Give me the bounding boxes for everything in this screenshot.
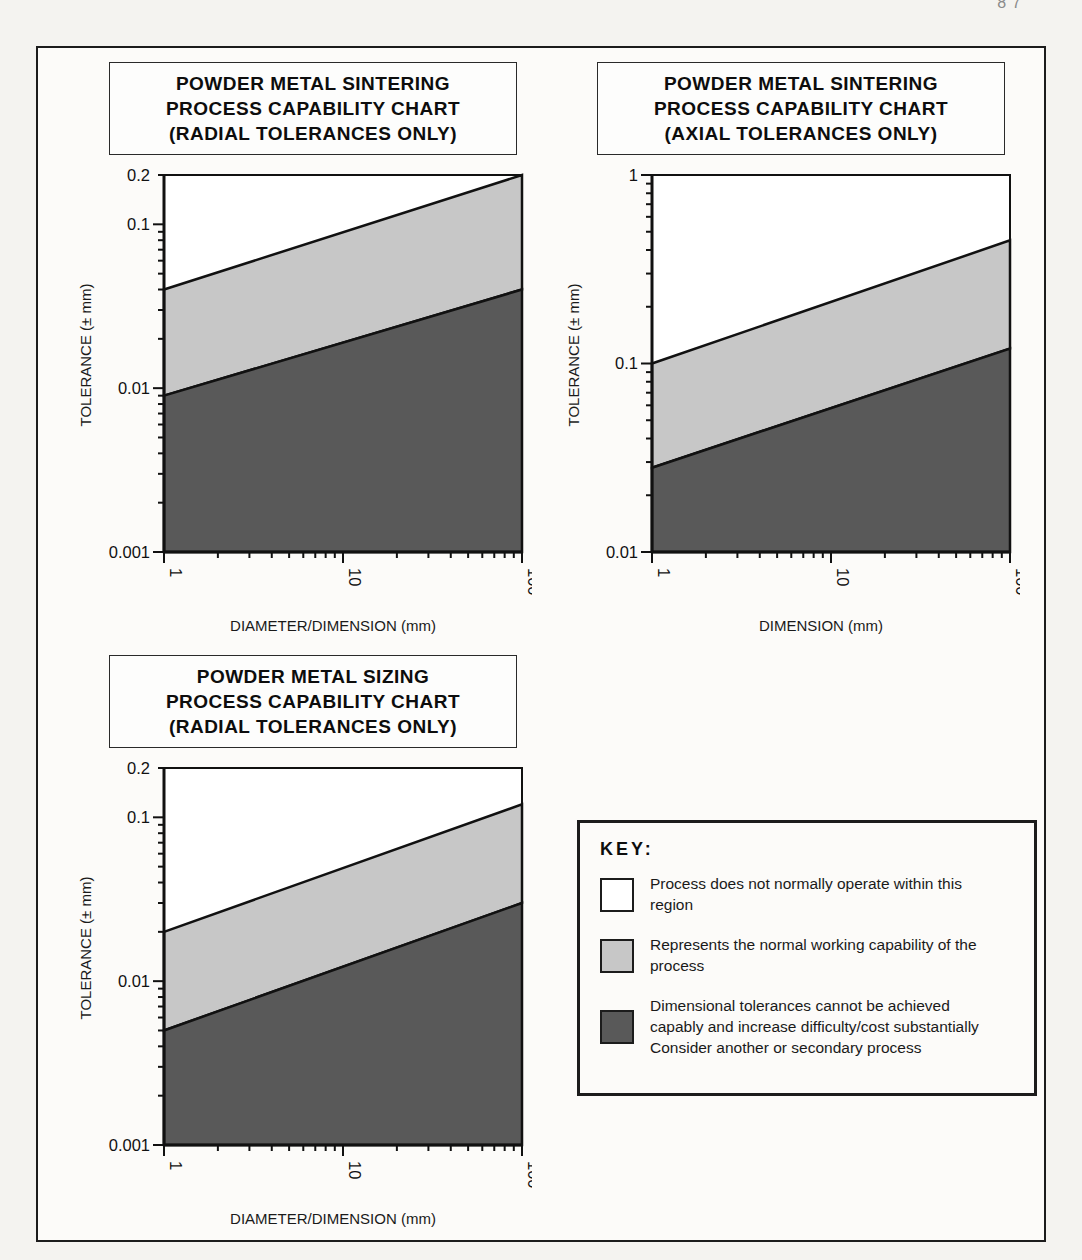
x-tick-label: 10 [346,1161,364,1179]
chart-sintering-axial: POWDER METAL SINTERING PROCESS CAPABILIT… [556,62,1046,634]
chart-title-line: PROCESS CAPABILITY CHART [602,96,1000,121]
x-tick-label: 100 [525,568,533,596]
chart-title-line: POWDER METAL SIZING [114,664,512,689]
plot-row: TOLERANCE (± mm) 0.0010.010.10.2110100 [68,760,558,1208]
y-axis-gutter: TOLERANCE (± mm) [556,167,590,615]
x-axis-label: DIAMETER/DIMENSION (mm) [68,617,558,634]
plot-row: TOLERANCE (± mm) 0.0010.010.10.2110100 [68,167,558,615]
y-tick-label: 0.1 [127,215,150,233]
key-item-white-region: Process does not normally operate within… [600,874,1014,916]
x-axis-label: DIMENSION (mm) [556,617,1046,634]
key-legend: KEY: Process does not normally operate w… [577,820,1037,1096]
dark-gray-region-swatch [600,1010,634,1044]
x-tick-label: 10 [834,568,852,586]
white-region-swatch [600,878,634,912]
plot-svg-sintering-radial: 0.0010.010.10.2110100 [102,167,532,615]
key-title: KEY: [600,839,1014,860]
y-tick-label: 0.1 [615,354,638,372]
x-tick-label: 100 [1013,568,1021,596]
figure-frame: POWDER METAL SINTERING PROCESS CAPABILIT… [36,46,1046,1242]
page-header-fragment: 87 [997,0,1027,11]
chart-title-box: POWDER METAL SINTERING PROCESS CAPABILIT… [109,62,517,155]
key-item-not-capable: Dimensional tolerances cannot be achieve… [600,996,1014,1059]
y-tick-label: 0.01 [118,972,150,990]
chart-sintering-radial: POWDER METAL SINTERING PROCESS CAPABILIT… [68,62,558,634]
y-tick-label: 0.1 [127,808,150,826]
y-tick-label: 0.01 [118,379,150,397]
plot-svg-sintering-axial: 0.010.11110100 [590,167,1020,615]
y-axis-label: TOLERANCE (± mm) [565,284,582,427]
y-axis-ticks: 0.0010.010.10.2 [109,760,164,1154]
chart-title-line: (RADIAL TOLERANCES ONLY) [114,121,512,146]
x-axis-ticks: 110100 [164,1145,532,1189]
x-axis-label: DIAMETER/DIMENSION (mm) [68,1210,558,1227]
chart-title-line: PROCESS CAPABILITY CHART [114,96,512,121]
y-axis-ticks: 0.0010.010.10.2 [109,167,164,561]
x-tick-label: 1 [167,1161,185,1170]
key-item-label: Represents the normal working capability… [650,935,1002,977]
light-gray-region-swatch [600,939,634,973]
x-tick-label: 1 [167,568,185,577]
chart-title-line: (AXIAL TOLERANCES ONLY) [602,121,1000,146]
chart-title-box: POWDER METAL SINTERING PROCESS CAPABILIT… [597,62,1005,155]
chart-sizing-radial: POWDER METAL SIZING PROCESS CAPABILITY C… [68,655,558,1227]
y-axis-gutter: TOLERANCE (± mm) [68,760,102,1208]
key-item-normal-capability: Represents the normal working capability… [600,935,1014,977]
plot-row: TOLERANCE (± mm) 0.010.11110100 [556,167,1046,615]
x-axis-ticks: 110100 [164,552,532,596]
x-tick-label: 10 [346,568,364,586]
y-tick-label: 0.001 [109,543,150,561]
x-axis-ticks: 110100 [652,552,1020,596]
key-item-label: Dimensional tolerances cannot be achieve… [650,996,1002,1059]
y-tick-label: 0.001 [109,1136,150,1154]
chart-title-line: (RADIAL TOLERANCES ONLY) [114,714,512,739]
chart-title-line: POWDER METAL SINTERING [602,71,1000,96]
scanned-page: 87 POWDER METAL SINTERING PROCESS CAPABI… [0,0,1082,1260]
x-tick-label: 100 [525,1161,533,1189]
chart-title-line: PROCESS CAPABILITY CHART [114,689,512,714]
chart-title-line: POWDER METAL SINTERING [114,71,512,96]
x-tick-label: 1 [655,568,673,577]
y-tick-label: 0.01 [606,543,638,561]
plot-svg-sizing-radial: 0.0010.010.10.2110100 [102,760,532,1208]
y-axis-label: TOLERANCE (± mm) [77,877,94,1020]
y-axis-gutter: TOLERANCE (± mm) [68,167,102,615]
key-item-label: Process does not normally operate within… [650,874,1002,916]
y-tick-label: 1 [629,167,638,184]
y-tick-label: 0.2 [127,167,150,184]
y-axis-ticks: 0.010.11 [606,167,652,561]
y-tick-label: 0.2 [127,760,150,777]
y-axis-label: TOLERANCE (± mm) [77,284,94,427]
chart-title-box: POWDER METAL SIZING PROCESS CAPABILITY C… [109,655,517,748]
